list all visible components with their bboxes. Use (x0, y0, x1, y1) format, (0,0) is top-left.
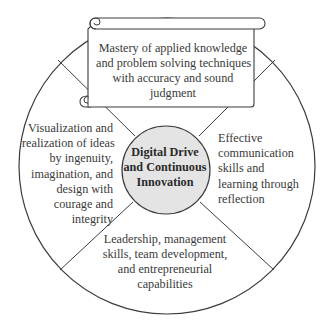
top-line-4: judgment (96, 86, 250, 101)
right-line-1: Effective (218, 131, 318, 146)
left-line-7: integrity (22, 212, 113, 227)
left-line-4: imagination, and (22, 167, 113, 182)
top-line-1: Mastery of applied knowledge (96, 41, 250, 56)
segment-top-label: Mastery of applied knowledge and problem… (96, 41, 250, 101)
center-line-2: and Continuous (122, 160, 208, 175)
center-label: Digital Drive and Continuous Innovation (122, 145, 208, 190)
bottom-line-2: skills, team development, (100, 247, 230, 262)
right-line-3: skills and (218, 161, 318, 176)
right-line-4: learning through (218, 177, 318, 192)
right-line-2: communication (218, 146, 318, 161)
top-line-2: and problem solving techniques (96, 56, 250, 71)
left-line-6: courage and (22, 197, 113, 212)
left-line-1: Visualization and (22, 121, 113, 136)
bottom-line-1: Leadership, management (100, 232, 230, 247)
left-line-3: by ingenuity, (22, 151, 113, 166)
top-line-3: with accuracy and sound (96, 71, 250, 86)
center-line-3: Innovation (122, 175, 208, 190)
segment-bottom-label: Leadership, management skills, team deve… (100, 232, 230, 292)
bottom-line-4: capabilities (100, 277, 230, 292)
segment-left-label: Visualization and realization of ideas b… (22, 121, 113, 227)
right-line-5: reflection (218, 192, 318, 207)
bottom-line-3: and entrepreneurial (100, 262, 230, 277)
segment-right-label: Effective communication skills and learn… (218, 131, 318, 207)
left-line-5: design with (22, 182, 113, 197)
left-line-2: realization of ideas (22, 136, 113, 151)
center-line-1: Digital Drive (122, 145, 208, 160)
